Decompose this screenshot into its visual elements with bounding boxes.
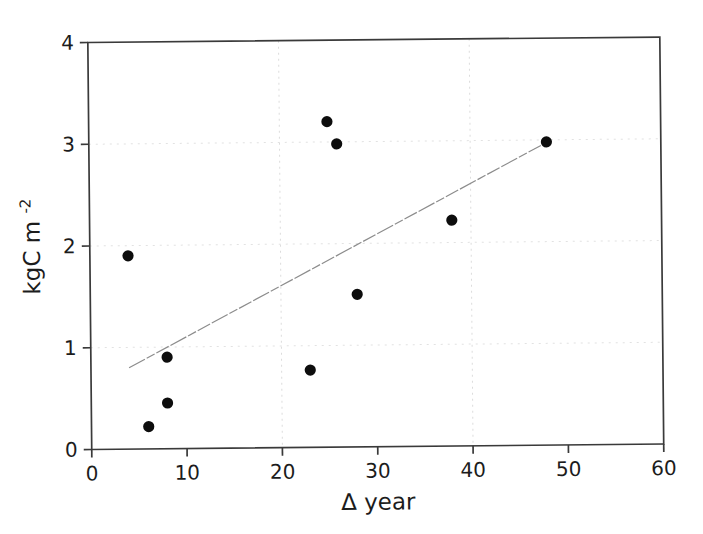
data-points-layer [121, 114, 555, 433]
data-point [321, 116, 332, 127]
y-axis-label-superscript: -2 [16, 199, 34, 214]
trend-line [127, 145, 544, 368]
x-tick-label: 30 [365, 459, 391, 483]
data-point [122, 250, 133, 261]
y-axis-label-base: kgC m [19, 221, 46, 295]
x-tick-label: 10 [174, 460, 200, 484]
y-axis-label: kgC m -2 [16, 198, 45, 294]
y-tick-label: 1 [64, 336, 77, 360]
plot-frame [88, 37, 664, 449]
x-tick-label: 50 [556, 457, 582, 481]
data-point [541, 136, 552, 147]
x-axis-label: Δ year [341, 488, 416, 515]
horizontal-gridline [91, 342, 663, 347]
scatter-plot-figure: 010203040506001234 Δ year kgC m -2 [0, 0, 703, 534]
x-tick-label: 40 [460, 458, 486, 482]
y-tick-label: 3 [62, 132, 75, 156]
scatter-plot-canvas: 010203040506001234 Δ year kgC m -2 [0, 0, 703, 534]
y-tick-label: 0 [65, 438, 78, 462]
data-point [161, 352, 172, 363]
data-point [352, 289, 363, 300]
data-point [331, 138, 342, 149]
y-tick-label: 2 [63, 234, 76, 258]
tick-labels-layer: 010203040506001234 [61, 25, 677, 486]
x-tick-label: 0 [85, 461, 98, 485]
axis-ticks-layer [80, 37, 664, 458]
plot-skew-group: 010203040506001234 Δ year kgC m -2 [15, 25, 677, 518]
horizontal-gridline [90, 241, 662, 246]
data-point [305, 364, 316, 375]
horizontal-gridline [89, 139, 661, 144]
data-point [143, 421, 154, 432]
x-tick-label: 60 [651, 456, 677, 480]
data-point [446, 214, 457, 225]
y-tick-label: 4 [61, 31, 74, 55]
data-point [162, 397, 173, 408]
x-tick-label: 20 [270, 460, 296, 484]
gridlines-layer [88, 37, 664, 449]
